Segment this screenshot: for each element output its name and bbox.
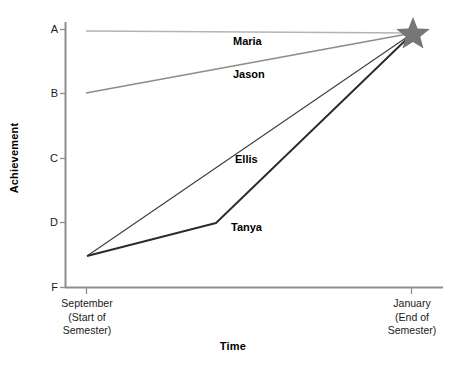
y-axis-title: Achievement <box>8 108 20 208</box>
series-label-ellis: Ellis <box>235 153 258 165</box>
series-label-jason: Jason <box>233 68 265 80</box>
achievement-time-chart: A B C D F September (Start of Semester) … <box>0 0 466 370</box>
x-tick-january-line2: (End of <box>352 311 466 325</box>
y-tick-label-b: B <box>36 88 58 99</box>
x-tick-september-line3: Semester) <box>27 324 147 338</box>
x-tick-january-line3: Semester) <box>352 324 466 338</box>
y-tick-label-d: D <box>36 217 58 228</box>
series-label-maria: Maria <box>233 35 262 47</box>
y-tick-label-a: A <box>36 24 58 35</box>
series-line-maria <box>86 31 413 33</box>
series-label-tanya: Tanya <box>231 221 262 233</box>
y-tick-label-c: C <box>36 153 58 164</box>
x-axis-title: Time <box>198 340 268 352</box>
x-tick-label-january: January (End of Semester) <box>352 297 466 338</box>
x-tick-label-september: September (Start of Semester) <box>27 297 147 338</box>
y-tick-label-f: F <box>36 282 58 293</box>
x-tick-september-line1: September <box>27 297 147 311</box>
x-tick-september-line2: (Start of <box>27 311 147 325</box>
x-tick-january-line1: January <box>352 297 466 311</box>
